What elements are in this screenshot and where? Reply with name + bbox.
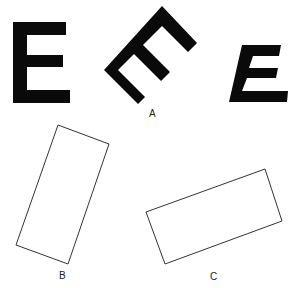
figure-canvas: A B C xyxy=(0,0,296,288)
rotated-e-glyph xyxy=(104,6,197,104)
label-b: B xyxy=(59,270,66,281)
label-a: A xyxy=(149,108,156,119)
upright-e-glyph xyxy=(13,22,70,103)
italic-e-glyph xyxy=(229,45,288,102)
label-c: C xyxy=(210,271,217,282)
rectangle-c xyxy=(146,169,282,264)
rectangle-b xyxy=(16,125,109,264)
